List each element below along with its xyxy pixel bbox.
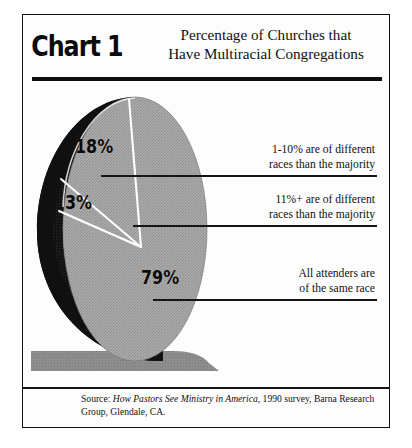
pie-chart-graphic	[23, 83, 391, 373]
source-prefix: Source:	[81, 393, 113, 404]
chart-header: Chart 1 Percentage of Churches that Have…	[23, 15, 389, 77]
source-note: Source: How Pastors See Ministry in Amer…	[81, 393, 381, 419]
annotation-2-line-1: 11%+ are of different	[269, 193, 375, 208]
pie-value-label-18: 18%	[75, 137, 113, 156]
chart-title: Percentage of Churches that Have Multira…	[151, 26, 389, 65]
pie-value-label-79: 79%	[141, 268, 179, 287]
annotation-2-line-2: races than the majority	[269, 208, 375, 223]
annotation-3: All attenders are of the same race	[298, 267, 375, 297]
annotation-1: 1-10% are of different races than the ma…	[269, 143, 375, 173]
annotation-1-line-1: 1-10% are of different	[269, 143, 375, 158]
annotation-2: 11%+ are of different races than the maj…	[269, 193, 375, 223]
annotation-1-line-2: races than the majority	[269, 158, 375, 173]
annotation-3-line-1: All attenders are	[298, 267, 375, 282]
leader-line-2	[133, 225, 377, 227]
source-publication-title: How Pastors See Ministry in America	[113, 393, 258, 404]
leader-line-3	[153, 299, 377, 301]
chart-frame: Chart 1 Percentage of Churches that Have…	[22, 14, 390, 428]
chart-title-line-1: Percentage of Churches that	[151, 26, 381, 45]
header-divider-rule	[32, 77, 382, 81]
chart-plot-area: 18% 3% 79% 1-10% are of different races …	[23, 83, 389, 373]
chart-title-line-2: Have Multiracial Congregations	[151, 45, 381, 64]
pie-value-label-3: 3%	[65, 193, 92, 212]
source-divider-rule	[23, 387, 389, 389]
annotation-3-line-2: of the same race	[298, 282, 375, 297]
chart-number-label: Chart 1	[23, 32, 128, 61]
leader-line-1	[101, 175, 377, 177]
